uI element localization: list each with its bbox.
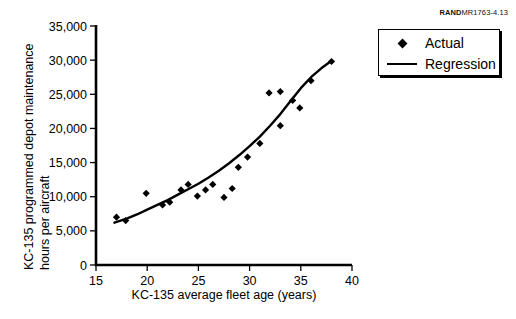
data-point-marker	[265, 89, 272, 96]
y-axis-label-line2: hours per aircraft	[38, 176, 52, 270]
y-tick-label: 15,000	[49, 156, 87, 170]
y-tick-label: 10,000	[49, 190, 87, 204]
x-tick-label: 35	[294, 274, 308, 288]
x-tick-label: 20	[140, 274, 154, 288]
data-point-marker	[209, 181, 216, 188]
legend-item-regression: Regression	[379, 53, 499, 75]
x-tick-label: 15	[89, 274, 103, 288]
data-point-marker	[277, 122, 284, 129]
y-tick-label: 20,000	[49, 122, 87, 136]
data-point-marker	[229, 185, 236, 192]
figure-kc135-pdm-hours: RANDMR1763-4.13 05,00010,00015,00020,000…	[0, 0, 516, 319]
data-point-marker	[256, 140, 263, 147]
legend-label-actual: Actual	[425, 36, 464, 50]
y-axis-label-line1: KC-135 programmed depot maintenance	[22, 43, 36, 270]
x-axis-label: KC-135 average fleet age (years)	[96, 288, 352, 302]
y-tick-label: 25,000	[49, 88, 87, 102]
data-point-marker	[202, 186, 209, 193]
x-tick-label: 25	[191, 274, 205, 288]
y-tick-label: 30,000	[49, 54, 87, 68]
y-tick-label: 0	[80, 259, 87, 273]
data-point-marker	[220, 194, 227, 201]
data-point-marker	[235, 164, 242, 171]
x-tick-label: 40	[345, 274, 359, 288]
line-marker-icon	[379, 63, 425, 65]
legend-item-actual: Actual	[379, 32, 499, 54]
y-tick-label: 5,000	[56, 224, 87, 238]
diamond-marker-icon	[379, 40, 425, 47]
data-point-marker	[244, 154, 251, 161]
legend: Actual Regression	[378, 29, 500, 76]
data-point-marker	[143, 190, 150, 197]
data-series	[113, 58, 335, 224]
legend-label-regression: Regression	[425, 57, 496, 71]
y-tick-label: 35,000	[49, 20, 87, 34]
x-tick-label: 30	[243, 274, 257, 288]
data-point-marker	[113, 214, 120, 221]
data-point-marker	[277, 88, 284, 95]
axes: 05,00010,00015,00020,00025,00030,00035,0…	[49, 20, 359, 289]
data-point-marker	[296, 104, 303, 111]
data-point-marker	[194, 192, 201, 199]
